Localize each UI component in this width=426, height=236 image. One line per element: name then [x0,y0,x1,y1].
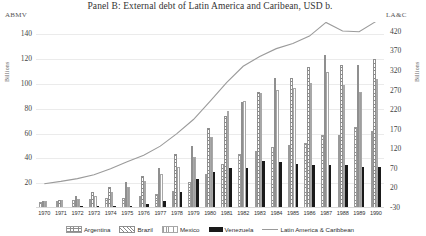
legend-label: Mexico [180,226,200,233]
x-tick-label: 1972 [69,210,86,220]
bar-group [252,22,269,208]
bar-group [218,22,235,208]
legend-swatch-icon [119,226,135,234]
right-tick-label: -30 [390,203,414,212]
bar-venezuela [213,172,216,208]
left-axis-name: ABMV [5,11,27,19]
bar-group [36,22,53,208]
right-tick-label: 420 [390,27,414,36]
legend-item-brazil[interactable]: Brazil [119,226,152,234]
x-tick-label: 1977 [152,210,169,220]
bar-venezuela [312,165,315,208]
x-tick-label: 1980 [202,210,219,220]
x-tick-label: 1975 [119,210,136,220]
bar-venezuela [329,165,332,208]
left-tick-label: 60 [10,129,32,138]
legend-swatch-icon [162,226,178,234]
bar-venezuela [296,164,299,208]
legend-item-venezuela[interactable]: Venezuela [209,226,254,233]
chart-title: Panel B: External debt of Latin America … [60,1,360,11]
right-tick-label: 70 [390,164,414,173]
axis-baseline [36,207,384,208]
bar-venezuela [229,168,232,208]
bar-group [235,22,252,208]
x-tick-label: 1974 [102,210,119,220]
bar-group [334,22,351,208]
x-axis-labels: 1970197119721973197419751976197719781979… [36,210,384,220]
chart-panel-b: Panel B: External debt of Latin America … [0,0,426,236]
x-tick-label: 1976 [135,210,152,220]
bar-group [86,22,103,208]
bar-group [69,22,86,208]
bar-venezuela [362,167,365,208]
bar-group [268,22,285,208]
bar-group [169,22,186,208]
plot-area [36,22,384,208]
bar-group [135,22,152,208]
x-tick-label: 1970 [36,210,53,220]
left-tick-label: 80 [10,104,32,113]
x-tick-label: 1973 [86,210,103,220]
bar-group [119,22,136,208]
bar-group [318,22,335,208]
left-tick-label: 140 [10,29,32,38]
bar-group [202,22,219,208]
bar-venezuela [279,162,282,208]
bar-group [301,22,318,208]
chart-legend: ArgentinaBrazilMexicoVenezuelaLatin Amer… [36,224,384,235]
x-tick-label: 1981 [218,210,235,220]
right-tick-label: 370 [390,46,414,55]
left-tick-label: 40 [10,153,32,162]
x-tick-label: 1990 [368,210,385,220]
bar-venezuela [246,168,249,208]
legend-label: Brazil [137,226,152,233]
right-tick-label: 20 [390,183,414,192]
x-tick-label: 1985 [285,210,302,220]
x-tick-label: 1986 [301,210,318,220]
x-tick-label: 1989 [351,210,368,220]
bar-venezuela [262,161,265,208]
left-tick-label: 120 [10,54,32,63]
right-tick-label: 120 [390,144,414,153]
bar-venezuela [196,179,199,208]
legend-swatch-icon [262,229,278,230]
bar-group [351,22,368,208]
right-tick-label: 270 [390,86,414,95]
right-tick-label: 170 [390,125,414,134]
bar-group [53,22,70,208]
right-axis-unit: Billions [414,22,420,82]
legend-label: Latin America & Caribbean [280,226,354,233]
x-tick-label: 1988 [334,210,351,220]
x-tick-label: 1978 [169,210,186,220]
right-tick-label: 320 [390,66,414,75]
legend-swatch-icon [209,227,223,233]
bar-group [185,22,202,208]
x-tick-label: 1983 [252,210,269,220]
legend-item-mexico[interactable]: Mexico [162,226,200,234]
right-axis-name: LA&C [386,11,407,19]
left-tick-label: 20 [10,178,32,187]
bar-venezuela [345,165,348,208]
bar-venezuela [378,167,381,208]
bar-group [152,22,169,208]
bar-group [285,22,302,208]
x-tick-label: 1984 [268,210,285,220]
legend-item-latin-america-caribbean[interactable]: Latin America & Caribbean [262,226,354,233]
x-tick-label: 1971 [53,210,70,220]
legend-item-argentina[interactable]: Argentina [66,226,111,234]
bar-groups [36,22,384,208]
x-tick-label: 1982 [235,210,252,220]
legend-swatch-icon [66,226,82,234]
left-tick-label: 100 [10,79,32,88]
bar-group [368,22,385,208]
x-tick-label: 1979 [185,210,202,220]
legend-label: Venezuela [225,226,254,233]
legend-label: Argentina [84,226,111,233]
x-tick-label: 1987 [318,210,335,220]
right-tick-label: 220 [390,105,414,114]
bar-venezuela [180,192,183,208]
bar-group [102,22,119,208]
